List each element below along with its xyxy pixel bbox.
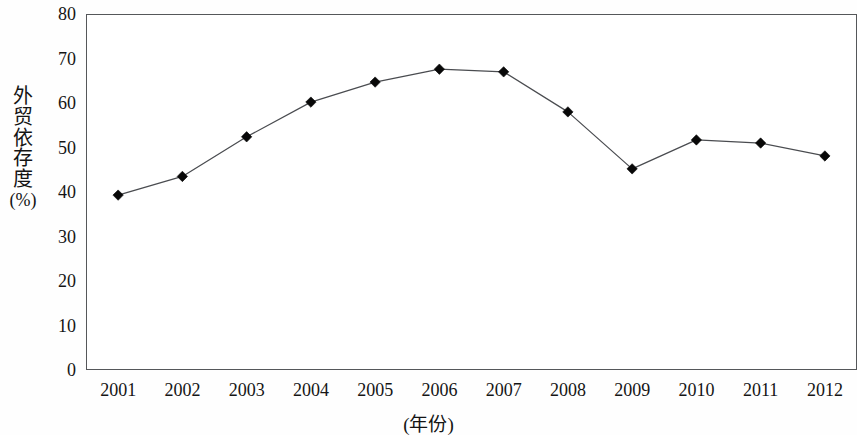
x-axis-tick-label: 2004 (293, 380, 329, 401)
x-axis-tick-label: 2002 (164, 380, 200, 401)
x-axis-tick-label: 2010 (678, 380, 714, 401)
line-chart-figure: 外 贸 依 存 度 (%) 01020304050607080 20012002… (0, 0, 857, 435)
y-axis-tick-label: 10 (58, 315, 76, 336)
x-axis-tick-label: 2011 (743, 380, 778, 401)
data-point-marker (241, 132, 251, 142)
y-axis-tick-labels: 01020304050607080 (0, 0, 86, 435)
data-point-marker (691, 135, 701, 145)
y-axis-tick-label: 30 (58, 226, 76, 247)
x-axis-title: (年份) (0, 409, 857, 435)
y-axis-tick-label: 20 (58, 271, 76, 292)
x-axis-tick-label: 2005 (357, 380, 393, 401)
series-marker-group (113, 64, 830, 200)
x-axis-tick-label: 2007 (486, 380, 522, 401)
x-axis-tick-label: 2006 (421, 380, 457, 401)
x-axis-tick-label: 2001 (100, 380, 136, 401)
x-axis-tick-label: 2008 (550, 380, 586, 401)
data-point-marker (306, 97, 316, 107)
data-series-layer (86, 14, 857, 370)
x-axis-tick-label: 2012 (807, 380, 843, 401)
data-point-marker (113, 190, 123, 200)
data-point-marker (498, 67, 508, 77)
series-line-path (118, 69, 825, 195)
y-axis-tick-label: 80 (58, 4, 76, 25)
y-axis-tick-label: 50 (58, 137, 76, 158)
x-axis-tick-label: 2003 (229, 380, 265, 401)
x-axis-tick-labels: 2001200220032004200520062007200820092010… (0, 380, 857, 406)
y-axis-tick-label: 70 (58, 48, 76, 69)
data-point-marker (370, 77, 380, 87)
data-point-marker (177, 171, 187, 181)
y-axis-tick-label: 0 (67, 360, 76, 381)
data-point-marker (820, 151, 830, 161)
data-point-marker (755, 138, 765, 148)
y-axis-tick-label: 60 (58, 93, 76, 114)
y-axis-tick-label: 40 (58, 182, 76, 203)
x-axis-tick-label: 2009 (614, 380, 650, 401)
data-point-marker (434, 64, 444, 74)
